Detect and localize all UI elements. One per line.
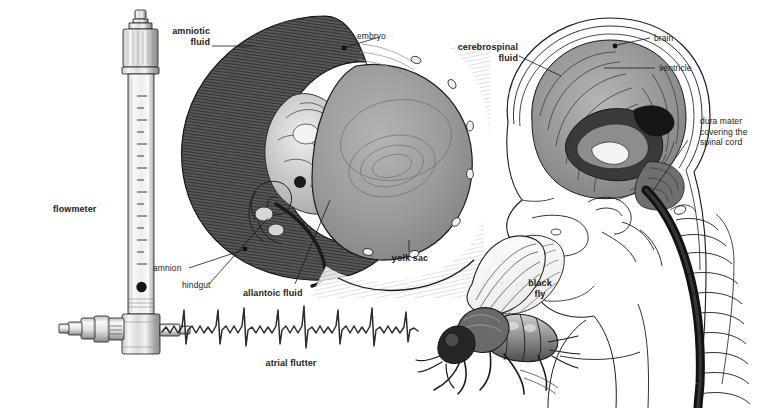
label-atrial-flutter: atrial flutter xyxy=(236,358,346,369)
label-black-fly: black fly xyxy=(520,278,560,299)
ecg-trace-illustration xyxy=(160,300,420,356)
illustration-page: flowmeter xyxy=(0,0,759,408)
black-fly-illustration xyxy=(420,222,590,392)
label-dura-mater: dura mater covering the spinal cord xyxy=(700,116,748,148)
label-brain: brain xyxy=(654,33,673,44)
label-cerebrospinal-fluid: cerebrospinal fluid xyxy=(430,42,518,63)
label-ventricle: ventricle xyxy=(659,63,692,74)
